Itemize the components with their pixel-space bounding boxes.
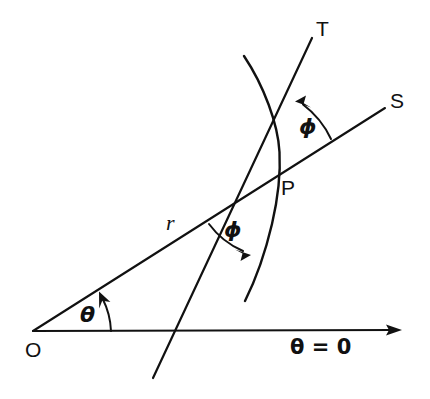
label-polar-axis: θ = 0: [290, 335, 351, 359]
tangent-line-T: [153, 38, 312, 378]
label-phi-lower: ϕ: [224, 217, 242, 242]
theta-arc-arrowhead: [99, 292, 110, 309]
theta-angle-group: [99, 292, 111, 332]
radial-ray-group: [33, 108, 385, 331]
theta-angle-arc: [103, 299, 112, 332]
label-theta: θ: [80, 302, 95, 327]
geometry-diagram: O P T S r θ ϕ ϕ θ = 0: [0, 0, 430, 399]
figure-root: O P T S r θ ϕ ϕ θ = 0: [0, 0, 430, 399]
label-radius-r: r: [166, 210, 175, 235]
label-tangent-T: T: [316, 17, 329, 40]
label-origin: O: [25, 338, 41, 361]
radial-ray-OS: [33, 108, 385, 331]
label-point-p: P: [281, 176, 295, 199]
polar-axis-line: [33, 330, 395, 331]
label-phi-upper: ϕ: [299, 114, 317, 139]
label-ray-S: S: [390, 89, 404, 112]
tangent-line-group: [153, 38, 312, 378]
